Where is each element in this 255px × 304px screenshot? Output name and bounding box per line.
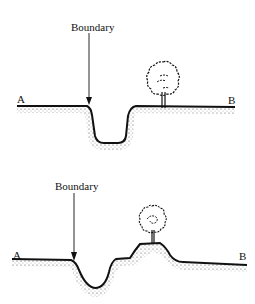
- tree-icon: [147, 61, 180, 108]
- bottom-panel: [12, 193, 247, 297]
- point-b-label-top: B: [228, 94, 235, 106]
- arrow-down-icon: [86, 33, 92, 105]
- point-b-label-bottom: B: [239, 250, 246, 262]
- boundary-diagram: [0, 0, 255, 304]
- arrow-down-icon: [71, 193, 77, 261]
- soil-stipple: [12, 243, 247, 297]
- top-panel: [17, 33, 235, 150]
- boundary-label-bottom: Boundary: [55, 180, 98, 192]
- tree-icon: [139, 205, 166, 243]
- point-a-label-bottom: A: [13, 249, 21, 261]
- boundary-label-top: Boundary: [71, 21, 114, 33]
- point-a-label-top: A: [17, 93, 25, 105]
